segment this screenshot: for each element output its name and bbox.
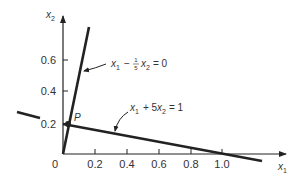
y-ticks	[63, 60, 68, 124]
x-tick-label: 0.6	[151, 158, 166, 170]
svg-text:x2= 0: x2= 0	[140, 58, 168, 71]
shallow-line-equation: x1+ 5x2= 1	[129, 102, 184, 115]
x-tick-label: 0.2	[87, 158, 102, 170]
origin-label: 0	[52, 158, 58, 170]
y-tick-label: 0.6	[41, 54, 56, 66]
shallow-line-leader	[115, 112, 128, 131]
point-p	[65, 121, 71, 127]
shallow-line	[63, 124, 262, 161]
steep-line-equation: x1− 1 5 x2= 0	[110, 57, 168, 71]
x-tick-label: 0.4	[119, 158, 134, 170]
svg-text:x1−: x1−	[110, 58, 130, 71]
y-tick-label: 0.2	[41, 118, 56, 130]
steep-line-leader	[84, 64, 106, 71]
x-axis-label: x1	[277, 161, 287, 174]
diagram-canvas: 0.2 0.4 0.6 0 0.2 0.4 0.6 0.8 1.0 x2 x1 …	[0, 0, 302, 177]
x-tick-label: 0.8	[183, 158, 198, 170]
point-p-label: P	[74, 112, 81, 123]
y-axis-label: x2	[45, 9, 55, 22]
fraction-numerator: 1	[134, 57, 138, 63]
svg-text:x1+ 5x2= 1: x1+ 5x2= 1	[129, 102, 184, 115]
fraction-denominator: 5	[134, 65, 138, 71]
shallow-line-left-segment	[17, 112, 40, 118]
x-tick-label: 1.0	[214, 158, 229, 170]
y-tick-label: 0.4	[41, 85, 56, 97]
